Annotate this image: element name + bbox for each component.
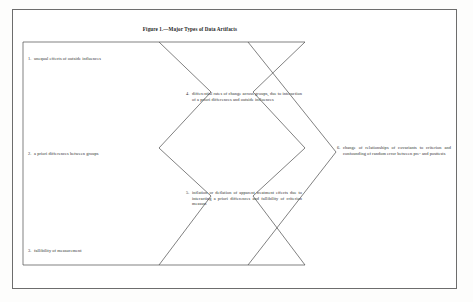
figure-item-2-text: a priori differences between groups: [34, 151, 158, 157]
figure-item-3: 3. fallibility of measurement: [28, 248, 158, 254]
figure-item-3-text: fallibility of measurement: [34, 248, 158, 254]
scanned-page: Figure 1.—Major Types of Data Artifacts …: [0, 0, 473, 302]
figure-item-5: 5. inflation or deflation of apparent tr…: [186, 190, 302, 207]
figure-caption: Figure 1.—Major Types of Data Artifacts: [0, 26, 380, 32]
figure-item-6: 6. change of relationships of covariants…: [337, 145, 451, 156]
figure-item-4: 4. differential rates of change across g…: [186, 91, 302, 102]
figure-item-5-text: inflation or deflation of apparent treat…: [192, 190, 302, 207]
figure-item-4-text: differential rates of change across grou…: [192, 91, 302, 102]
figure-item-1-text: unequal effects of outside influences: [34, 56, 158, 62]
figure-item-2: 2. a priori differences between groups: [28, 151, 158, 157]
figure-item-1: 1. unequal effects of outside influences: [28, 56, 158, 62]
figure-item-6-text: change of relationships of covariants to…: [343, 145, 451, 156]
